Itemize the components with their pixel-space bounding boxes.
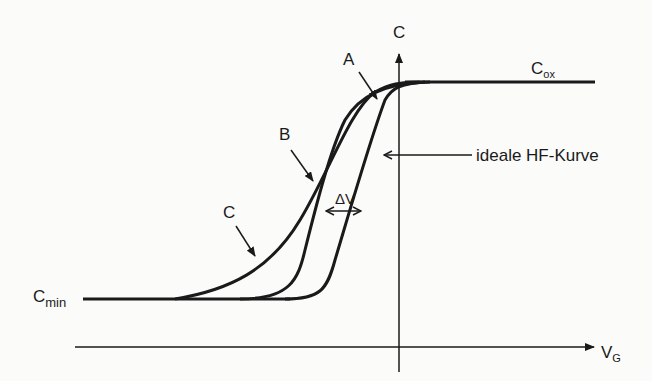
curve-ideal	[285, 82, 430, 299]
cv-diagram	[0, 0, 652, 381]
cmin-label-sub: min	[45, 295, 66, 310]
ideal-curve-label: ideale HF-Kurve	[476, 147, 599, 164]
curve-c-label: C	[223, 204, 235, 221]
curve-a-label: A	[343, 51, 354, 68]
curve-b-label: B	[279, 126, 290, 143]
cmin-label: Cmin	[33, 288, 66, 309]
cox-label: Cox	[531, 60, 555, 80]
pointer-c	[236, 226, 255, 256]
pointer-b	[291, 150, 313, 181]
x-axis-label-sub: G	[612, 352, 621, 364]
delta-v-label: ΔV	[335, 191, 355, 206]
cmin-label-main: C	[33, 287, 45, 306]
x-axis-label: VG	[601, 344, 621, 364]
cox-label-sub: ox	[543, 68, 555, 80]
cox-label-main: C	[531, 59, 543, 78]
curve-c	[175, 82, 420, 299]
y-axis-label: C	[393, 24, 405, 41]
x-axis-label-main: V	[601, 343, 612, 362]
